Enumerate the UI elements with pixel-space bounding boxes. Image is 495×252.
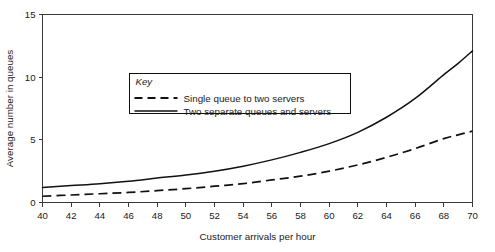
x-tick-label: 42	[66, 210, 77, 221]
y-tick-label: 5	[30, 134, 35, 145]
x-tick-label: 54	[238, 210, 249, 221]
x-axis: 40424446485052545658606264666870	[37, 203, 478, 221]
x-tick-label: 60	[324, 210, 335, 221]
x-tick-label: 56	[266, 210, 277, 221]
x-tick-label: 62	[352, 210, 363, 221]
legend-title: Key	[136, 76, 154, 87]
y-tick-label: 10	[25, 72, 36, 83]
x-tick-label: 58	[295, 210, 306, 221]
y-tick-label: 15	[25, 9, 36, 20]
legend-entry-label: Two separate queues and servers	[184, 106, 332, 117]
series-line-2	[43, 51, 473, 188]
x-tick-label: 52	[209, 210, 220, 221]
queueing-line-chart: 05101540424446485052545658606264666870Cu…	[0, 0, 495, 252]
x-tick-label: 44	[94, 210, 105, 221]
y-axis: 051015	[25, 9, 43, 208]
x-tick-label: 40	[37, 210, 48, 221]
x-tick-label: 70	[467, 210, 478, 221]
y-tick-label: 0	[30, 197, 35, 208]
x-tick-label: 50	[180, 210, 191, 221]
chart-figure: 05101540424446485052545658606264666870Cu…	[0, 0, 495, 252]
x-tick-label: 48	[152, 210, 163, 221]
x-tick-label: 68	[438, 210, 449, 221]
x-tick-label: 64	[381, 210, 392, 221]
x-tick-label: 46	[123, 210, 134, 221]
y-axis-title: Average number in queues	[4, 50, 15, 168]
legend: KeySingle queue to two serversTwo separa…	[130, 74, 351, 117]
x-tick-label: 66	[410, 210, 421, 221]
legend-entry-label: Single queue to two servers	[184, 93, 305, 104]
x-axis-title: Customer arrivals per hour	[200, 231, 317, 242]
